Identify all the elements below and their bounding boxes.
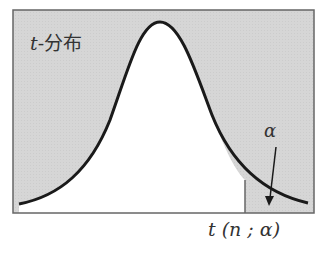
- critical-value-label: t (n ; α): [208, 218, 280, 240]
- alpha-label: α: [264, 120, 276, 141]
- diagram-title: t-分布: [30, 28, 82, 55]
